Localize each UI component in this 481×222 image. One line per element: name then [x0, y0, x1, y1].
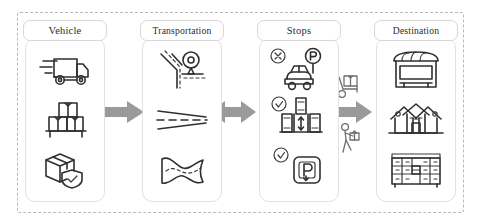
stage-label-transportation: Transportation	[140, 20, 224, 41]
winding-road-icon	[151, 147, 213, 193]
stage-label-vehicle: Vehicle	[23, 20, 107, 41]
parking-spaces-icon	[268, 97, 330, 143]
pallet-boxes-icon	[34, 97, 96, 143]
icon-card-vehicle	[25, 38, 105, 202]
road-lane-lines-icon	[151, 97, 213, 143]
icon-card-stops	[259, 38, 339, 202]
stage-column-destination[interactable]: Destination	[374, 20, 458, 206]
storefront-icon	[385, 47, 447, 93]
road-junction-pin-icon	[151, 47, 213, 93]
parcel-lockers-icon	[385, 147, 447, 193]
logistics-flow-diagram: Vehicle	[0, 0, 481, 222]
stage-label-stops: Stops	[257, 20, 341, 41]
secure-package-icon	[34, 147, 96, 193]
stage-label-destination: Destination	[374, 20, 458, 41]
stage-column-transportation[interactable]: Transportation	[140, 20, 224, 206]
delivery-truck-icon	[34, 47, 96, 93]
stage-column-stops[interactable]: Stops	[257, 20, 341, 206]
icon-card-destination	[376, 38, 456, 202]
stage-column-vehicle[interactable]: Vehicle	[23, 20, 107, 206]
houses-icon	[385, 97, 447, 143]
parking-sign-icon	[268, 147, 330, 193]
no-parking-car-icon	[268, 47, 330, 93]
icon-card-transportation	[142, 38, 222, 202]
stage-columns: Vehicle	[17, 12, 464, 213]
